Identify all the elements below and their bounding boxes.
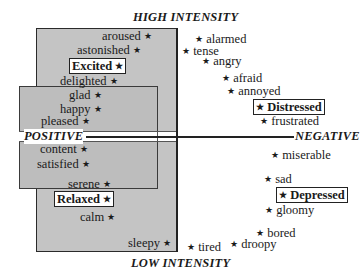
star-icon: ★ — [82, 159, 90, 169]
star-icon: ★ — [187, 242, 195, 252]
emotion-annoyed: ★ annoyed — [227, 84, 280, 98]
star-icon: ★ — [115, 61, 123, 71]
star-icon: ★ — [271, 150, 279, 160]
star-icon: ★ — [94, 104, 102, 114]
vertical-axis — [176, 28, 178, 252]
emotion-gloomy: ★ gloomy — [265, 203, 314, 217]
star-icon: ★ — [227, 86, 235, 96]
emotion-glad: glad ★ — [69, 88, 102, 102]
star-icon: ★ — [182, 46, 190, 56]
star-icon: ★ — [265, 205, 273, 215]
star-icon: ★ — [256, 102, 264, 112]
star-icon: ★ — [279, 190, 287, 200]
star-icon: ★ — [195, 34, 203, 44]
emotion-depressed-highlight: ★ Depressed — [276, 187, 348, 203]
star-icon: ★ — [133, 45, 141, 55]
horizontal-axis — [86, 136, 294, 138]
emotion-distressed-highlight: ★ Distressed — [253, 99, 325, 115]
axis-label-negative: NEGATIVE — [295, 129, 360, 144]
star-icon: ★ — [82, 116, 90, 126]
emotion-angry: ★ angry — [202, 54, 242, 68]
star-icon: ★ — [264, 174, 272, 184]
emotion-relaxed-highlight: Relaxed ★ — [54, 191, 114, 207]
emotion-pleased: pleased ★ — [41, 114, 90, 128]
star-icon: ★ — [230, 239, 238, 249]
axis-label-high: HIGH INTENSITY — [133, 10, 238, 25]
emotion-afraid: ★ afraid — [222, 71, 262, 85]
star-icon: ★ — [260, 116, 268, 126]
star-icon: ★ — [94, 90, 102, 100]
emotion-content: content ★ — [40, 142, 88, 156]
star-icon: ★ — [80, 144, 88, 154]
emotion-miserable: ★ miserable — [271, 148, 331, 162]
axis-label-low: LOW INTENSITY — [131, 256, 230, 271]
emotion-delighted: delighted ★ — [60, 74, 118, 88]
star-icon: ★ — [222, 73, 230, 83]
star-icon: ★ — [163, 238, 171, 248]
emotion-sad: ★ sad — [264, 172, 292, 186]
emotion-astonished: astonished ★ — [77, 43, 141, 57]
emotion-sleepy: sleepy ★ — [128, 236, 171, 250]
star-icon: ★ — [202, 56, 210, 66]
emotion-aroused: aroused ★ — [102, 29, 152, 43]
star-icon: ★ — [103, 179, 111, 189]
star-icon: ★ — [107, 212, 115, 222]
emotion-frustrated: ★ frustrated — [260, 114, 319, 128]
emotion-excited-highlight: Excited ★ — [69, 58, 126, 74]
emotion-droopy: ★ droopy — [230, 237, 277, 251]
star-icon: ★ — [110, 76, 118, 86]
emotion-tired: ★ tired — [187, 240, 221, 254]
star-icon: ★ — [103, 194, 111, 204]
emotion-calm: calm ★ — [80, 210, 115, 224]
star-icon: ★ — [144, 31, 152, 41]
emotion-satisfied: satisfied ★ — [37, 157, 90, 171]
emotion-serene: serene ★ — [68, 177, 111, 191]
